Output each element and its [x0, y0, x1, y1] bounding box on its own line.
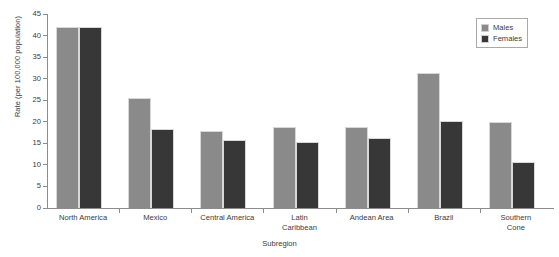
legend-item-males: Males	[481, 22, 522, 33]
chart-legend: Males Females	[476, 18, 528, 48]
y-axis-tick-mark	[43, 186, 47, 187]
y-axis-tick-label: 10	[11, 160, 41, 169]
y-axis-tick-label: 25	[11, 95, 41, 104]
bar-females	[223, 140, 246, 208]
x-axis-category-label-line: Mexico	[115, 213, 195, 223]
y-axis-tick-label: 40	[11, 31, 41, 40]
y-axis-tick-label: 15	[11, 138, 41, 147]
bar-females	[79, 27, 102, 208]
bar-females	[440, 121, 463, 209]
bar-group	[417, 14, 463, 208]
bar-males	[128, 98, 151, 208]
x-axis-category-label-line: North America	[43, 213, 123, 223]
legend-label-females: Females	[493, 34, 522, 43]
footer-caption	[2, 250, 302, 257]
bar-males	[56, 27, 79, 208]
y-axis-tick-mark	[43, 121, 47, 122]
x-axis-category-label-line: Brazil	[404, 213, 484, 223]
x-axis-category-label: North America	[43, 213, 123, 223]
y-axis-tick-mark	[43, 35, 47, 36]
x-axis-category-label-line: Central America	[187, 213, 267, 223]
legend-item-females: Females	[481, 33, 522, 44]
bar-males	[417, 73, 440, 208]
bar-group	[273, 14, 319, 208]
x-axis-category-label-line: Latin	[260, 213, 340, 223]
y-axis-tick-label: 45	[11, 9, 41, 18]
y-axis-tick-mark	[43, 14, 47, 15]
bar-males	[345, 127, 368, 208]
y-axis-tick-label: 35	[11, 52, 41, 61]
x-axis-category-label-line: Southern	[476, 213, 556, 223]
x-axis-category-label: Andean Area	[332, 213, 412, 223]
bar-females	[368, 138, 391, 208]
bar-males	[200, 131, 223, 208]
y-axis-tick-mark	[43, 57, 47, 58]
x-axis-category-label-line: Cone	[476, 223, 556, 233]
x-axis-category-label-line: Caribbean	[260, 223, 340, 233]
bar-females	[512, 162, 535, 208]
bar-females	[296, 142, 319, 208]
x-axis-category-label: Brazil	[404, 213, 484, 223]
bar-females	[151, 129, 174, 208]
bar-males	[489, 122, 512, 208]
y-axis-tick-mark	[43, 143, 47, 144]
x-axis-title: Subregion	[0, 239, 559, 248]
y-axis-tick-label: 30	[11, 74, 41, 83]
x-axis-category-label: LatinCaribbean	[260, 213, 340, 232]
y-axis-tick-label: 0	[11, 203, 41, 212]
bar-males	[273, 127, 296, 208]
bar-group	[200, 14, 246, 208]
bar-group	[345, 14, 391, 208]
y-axis-tick-label: 20	[11, 117, 41, 126]
x-axis-category-label: Mexico	[115, 213, 195, 223]
legend-swatch-males-icon	[481, 24, 489, 32]
y-axis-tick-mark	[43, 164, 47, 165]
bar-group	[128, 14, 174, 208]
bar-group	[56, 14, 102, 208]
x-axis-category-label: Central America	[187, 213, 267, 223]
x-axis-category-label-line: Andean Area	[332, 213, 412, 223]
y-axis-tick-label: 5	[11, 181, 41, 190]
legend-label-males: Males	[493, 23, 513, 32]
legend-swatch-females-icon	[481, 35, 489, 43]
y-axis-tick-mark	[43, 208, 47, 209]
x-axis-category-label: SouthernCone	[476, 213, 556, 232]
x-axis-line	[47, 208, 554, 209]
y-axis-tick-mark	[43, 100, 47, 101]
bar-chart: Rate (per 100,000 population) 4540353025…	[0, 0, 559, 257]
y-axis-tick-mark	[43, 78, 47, 79]
